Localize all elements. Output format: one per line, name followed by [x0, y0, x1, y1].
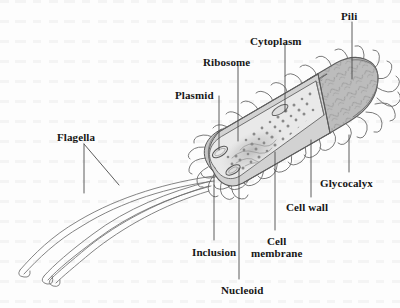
label-ribosome: Ribosome — [203, 57, 250, 69]
label-flagella: Flagella — [57, 132, 95, 144]
label-cytoplasm: Cytoplasm — [250, 36, 302, 48]
label-plasmid: Plasmid — [175, 90, 214, 102]
label-nucleoid: Nucleoid — [221, 285, 263, 297]
prokaryotic-cell-illustration — [0, 0, 400, 308]
leader-flagella-right — [84, 144, 119, 185]
label-pili: Pili — [341, 11, 357, 23]
label-inclusion: Inclusion — [192, 247, 236, 259]
label-cell-membrane: Cell membrane — [251, 236, 303, 259]
flagella-appendages — [19, 176, 214, 286]
label-cell-wall: Cell wall — [286, 202, 328, 214]
diagram-canvas: Flagella Plasmid Ribosome Cytoplasm Pili… — [0, 0, 400, 308]
label-glycocalyx: Glycocalyx — [320, 178, 373, 190]
